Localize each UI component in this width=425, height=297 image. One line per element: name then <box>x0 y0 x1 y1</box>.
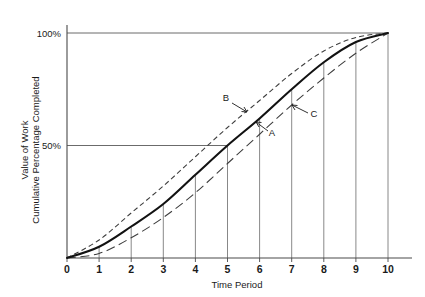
x-tick-label-6: 6 <box>257 263 263 275</box>
series-label-b: B <box>223 92 229 103</box>
y-axis-title-line1: Value of Work <box>19 120 30 179</box>
x-tick-label-3: 3 <box>160 263 166 275</box>
x-axis-title: Time Period <box>212 279 263 290</box>
chart-background <box>0 0 425 297</box>
series-label-c: C <box>311 108 318 119</box>
x-tick-label-1: 1 <box>96 263 102 275</box>
y-axis-title-line2: Cumulative Percentage Completed <box>30 76 41 223</box>
x-tick-label-4: 4 <box>192 263 198 275</box>
x-tick-label-5: 5 <box>225 263 231 275</box>
x-tick-label-7: 7 <box>289 263 295 275</box>
x-tick-label-8: 8 <box>321 263 327 275</box>
y-tick-label-50pct: 50% <box>42 140 62 151</box>
x-tick-label-10: 10 <box>382 263 394 275</box>
y-tick-label-100pct: 100% <box>37 28 62 39</box>
chart-figure: 012345678910 50%100% Value of Work Cumul… <box>0 0 425 297</box>
x-tick-label-9: 9 <box>353 263 359 275</box>
x-tick-label-2: 2 <box>128 263 134 275</box>
x-tick-label-0: 0 <box>64 263 70 275</box>
series-label-a: A <box>269 127 276 138</box>
s-curve-chart: 012345678910 50%100% Value of Work Cumul… <box>0 0 425 297</box>
